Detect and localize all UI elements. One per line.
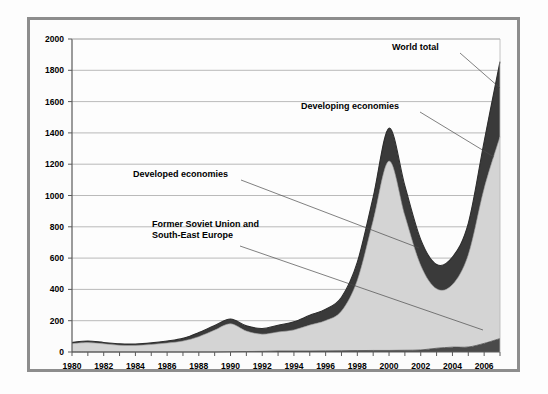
x-axis-label-2006: 2006 (475, 361, 494, 371)
y-axis-label-0: 0 (59, 347, 64, 357)
y-axis-label-800: 800 (50, 222, 64, 232)
x-axis-label-2002: 2002 (411, 361, 430, 371)
x-axis-tick-labels: 1980198219841986198819901992199419961998… (63, 361, 494, 371)
y-axis-label-600: 600 (50, 253, 64, 263)
y-axis-label-1400: 1400 (45, 128, 64, 138)
x-axis-label-1992: 1992 (253, 361, 272, 371)
chart-figure: 0200400600800100012001400160018002000 19… (0, 0, 548, 394)
y-axis-label-1200: 1200 (45, 159, 64, 169)
y-axis-label-1600: 1600 (45, 97, 64, 107)
x-axis-label-1986: 1986 (158, 361, 177, 371)
annotation-label-developed-economies: Developed economies (133, 169, 228, 179)
x-axis-label-1990: 1990 (221, 361, 240, 371)
annotation-label-world-total: World total (392, 42, 439, 52)
x-axis-label-2004: 2004 (443, 361, 462, 371)
stacked-area-chart: 0200400600800100012001400160018002000 19… (0, 0, 548, 394)
x-axis-label-1980: 1980 (63, 361, 82, 371)
annotation-label-developing-economies: Developing economies (301, 101, 399, 111)
y-axis-label-200: 200 (50, 316, 64, 326)
x-axis-label-1984: 1984 (126, 361, 145, 371)
y-axis-label-1000: 1000 (45, 191, 64, 201)
x-axis-label-1982: 1982 (94, 361, 113, 371)
y-axis-tick-labels: 0200400600800100012001400160018002000 (45, 34, 64, 357)
y-axis-label-400: 400 (50, 284, 64, 294)
x-axis-label-2000: 2000 (380, 361, 399, 371)
x-axis-label-1996: 1996 (316, 361, 335, 371)
x-axis-label-1994: 1994 (284, 361, 303, 371)
x-axis-label-1998: 1998 (348, 361, 367, 371)
x-axis-label-1988: 1988 (189, 361, 208, 371)
y-axis-label-1800: 1800 (45, 65, 64, 75)
y-axis-label-2000: 2000 (45, 34, 64, 44)
